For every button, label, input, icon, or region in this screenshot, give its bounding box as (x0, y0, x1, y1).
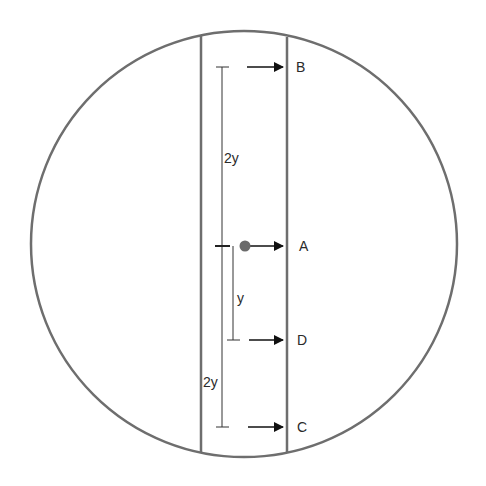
point-a-dot (240, 241, 251, 252)
dimension-label-upper: 2y (224, 150, 239, 166)
label-d: D (297, 332, 307, 348)
dimension-label-lower: 2y (203, 374, 218, 390)
label-c: C (297, 419, 307, 435)
label-a: A (299, 238, 309, 254)
diagram-svg: B A D C 2y y 2y (0, 0, 486, 486)
diagram-canvas: B A D C 2y y 2y (0, 0, 486, 486)
label-b: B (296, 59, 305, 75)
dimension-label-middle: y (237, 290, 244, 306)
